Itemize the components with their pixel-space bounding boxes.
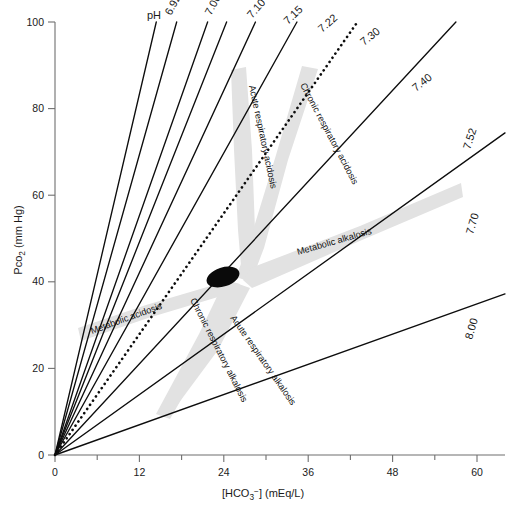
y-tick-label: 20 bbox=[32, 362, 44, 374]
y-tick-label: 100 bbox=[26, 16, 44, 28]
ph-label-7-40: 7.40 bbox=[410, 71, 434, 94]
ph-label-7-00: 7.00 bbox=[202, 0, 223, 17]
ph-label-8-00: 8.00 bbox=[462, 317, 479, 341]
x-axis-ticks: 01224364860 bbox=[52, 455, 483, 478]
x-tick-label: 0 bbox=[52, 466, 58, 478]
y-axis-title: Pco2 (mm Hg) bbox=[12, 205, 27, 274]
x-axis-title: [HCO3−] (mEq/L) bbox=[222, 486, 304, 502]
ph-label-7-15: 7.15 bbox=[281, 3, 305, 27]
x-tick-label: 24 bbox=[218, 466, 230, 478]
ph-label-7-30: 7.30 bbox=[358, 25, 382, 48]
y-axis-title-tail: (mm Hg) bbox=[12, 205, 24, 251]
band-label-chronic-respiratory-acidosis: Chronic respiratory acidosis bbox=[298, 81, 360, 186]
ph-prefix-label: pH bbox=[147, 9, 161, 21]
ph-line-7-22 bbox=[55, 22, 255, 455]
x-tick-label: 12 bbox=[134, 466, 146, 478]
ph-label-7-52: 7.52 bbox=[460, 127, 478, 151]
y-axis-title-main: Pco bbox=[12, 256, 24, 275]
y-tick-label: 40 bbox=[32, 275, 44, 287]
ph-label-7-22: 7.22 bbox=[315, 11, 339, 34]
x-axis-title-main: [HCO bbox=[222, 487, 250, 499]
acid-base-nomogram: 020406080100 01224364860 Pco2 (mm Hg) [H… bbox=[0, 0, 512, 505]
x-axis-title-tail: ] (mEq/L) bbox=[259, 487, 304, 499]
svg-text:[HCO3−] (mEq/L): [HCO3−] (mEq/L) bbox=[222, 486, 304, 502]
y-tick-label: 0 bbox=[38, 449, 44, 461]
ph-line-7-40 bbox=[55, 22, 357, 455]
ph-label-7-70: 7.70 bbox=[463, 212, 480, 236]
ph-label-6-92: 6.92 bbox=[162, 0, 183, 17]
x-tick-label: 48 bbox=[387, 466, 399, 478]
x-tick-label: 60 bbox=[471, 466, 483, 478]
band-label-metabolic-acidosis: Metabolic acidosis bbox=[89, 301, 163, 336]
y-tick-label: 60 bbox=[32, 189, 44, 201]
y-tick-label: 80 bbox=[32, 102, 44, 114]
ph-label-7-10: 7.10 bbox=[244, 0, 267, 20]
x-tick-label: 36 bbox=[302, 466, 314, 478]
y-axis-ticks: 020406080100 bbox=[26, 16, 55, 461]
diagnostic-band-labels-group: Acute respiratory acidosisChronic respir… bbox=[89, 81, 373, 407]
svg-text:Pco2 (mm Hg): Pco2 (mm Hg) bbox=[12, 205, 27, 274]
nomogram-canvas: 020406080100 01224364860 Pco2 (mm Hg) [H… bbox=[0, 0, 512, 505]
band-label-metabolic-alkalosis: Metabolic alkalosis bbox=[296, 226, 373, 257]
